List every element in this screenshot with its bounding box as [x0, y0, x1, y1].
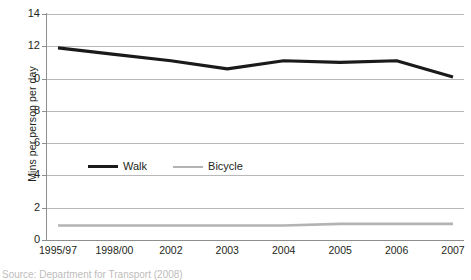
y-tick-mark-14: [42, 14, 47, 15]
y-tick-mark-8: [42, 111, 47, 112]
y-tick-mark-10: [42, 79, 47, 80]
chart-legend: Walk Bicycle: [88, 161, 243, 172]
y-tick-mark-2: [42, 208, 47, 209]
x-tick-label-2006: 2006: [385, 244, 408, 256]
walk-series-line: [58, 48, 453, 77]
bicycle-line-swatch: [173, 166, 203, 168]
x-tick-label-1998-00: 1998/00: [95, 244, 133, 256]
legend-label-bicycle: Bicycle: [208, 161, 243, 172]
y-tick-mark-6: [42, 143, 47, 144]
legend-label-walk: Walk: [123, 161, 147, 172]
source-caption: Source: Department for Transport (2008): [2, 269, 183, 280]
x-tick-label-2002: 2002: [159, 244, 182, 256]
x-tick-label-2003: 2003: [216, 244, 239, 256]
walk-line-swatch: [88, 165, 118, 168]
y-tick-mark-12: [42, 46, 47, 47]
bicycle-series-line: [58, 224, 453, 226]
x-tick-label-1995-97: 1995/97: [39, 244, 77, 256]
x-tick-label-2005: 2005: [328, 244, 351, 256]
legend-entry-walk: Walk: [88, 161, 147, 172]
legend-entry-bicycle: Bicycle: [173, 161, 243, 172]
x-tick-label-2007: 2007: [441, 244, 464, 256]
x-tick-label-2004: 2004: [272, 244, 295, 256]
y-tick-mark-0: [42, 240, 47, 241]
y-tick-mark-4: [42, 175, 47, 176]
